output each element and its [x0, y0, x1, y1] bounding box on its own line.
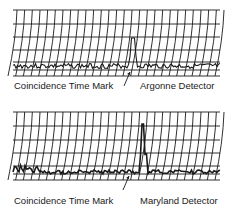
grid-arc [131, 112, 140, 180]
grid-arc [46, 112, 55, 180]
grid-arc [39, 112, 48, 180]
strip-chart-recordings [0, 0, 229, 214]
grid-arc [200, 112, 209, 180]
maryland-detector-label: Maryland Detector [140, 195, 218, 206]
grid-arc [169, 112, 178, 180]
grid-arc [69, 112, 78, 180]
grid-arc [69, 10, 78, 76]
grid-arc [62, 112, 71, 180]
grid-arc [207, 10, 216, 76]
grid-arc [8, 112, 17, 180]
grid-arc [200, 10, 209, 76]
maryland-mark-label: Coincidence Time Mark [14, 195, 113, 206]
grid-arc [100, 112, 109, 180]
argonne-detector-label: Argonne Detector [140, 80, 214, 91]
grid-arc [85, 112, 94, 180]
grid-arc [39, 10, 48, 76]
grid-arc [161, 112, 170, 180]
argonne-mark-label: Coincidence Time Mark [14, 80, 113, 91]
grid-arc [207, 112, 216, 180]
grid-arc [177, 112, 186, 180]
